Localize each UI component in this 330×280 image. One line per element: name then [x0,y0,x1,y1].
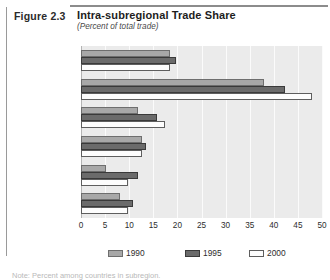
gridline-35 [250,46,251,218]
legend-label: 1990 [126,248,145,258]
x-tick-label-5: 5 [103,221,108,230]
x-tick-label-40: 40 [269,221,278,230]
chart-legend: 199019952000 [81,248,322,260]
bar [81,150,142,157]
legend-label: 1995 [203,248,222,258]
figure-footnote: Note: Percent among countries in subregi… [12,271,160,280]
bar [81,121,165,128]
legend-swatch-icon [108,250,123,257]
legend-swatch-icon [185,250,200,257]
x-tick-label-25: 25 [197,221,206,230]
legend-swatch-icon [249,250,264,257]
bar [81,193,120,200]
bar [81,79,264,86]
gridline-40 [274,46,275,218]
bar [81,179,128,186]
x-tick-label-45: 45 [293,221,302,230]
bar [81,114,157,121]
gridline-20 [177,46,178,218]
bar [81,207,128,214]
bar [81,64,170,71]
figure-subtitle: (Percent of total trade) [77,22,158,31]
legend-item-1995[interactable]: 1995 [185,248,222,258]
x-tick-label-50: 50 [317,221,326,230]
x-tick-label-35: 35 [245,221,254,230]
x-tick-label-20: 20 [173,221,182,230]
figure-number: Figure 2.3 [14,10,66,22]
bar [81,93,312,100]
x-tick-label-30: 30 [221,221,230,230]
x-tick-label-15: 15 [149,221,158,230]
gridline-10 [129,46,130,218]
gridline-50 [322,46,323,218]
bar [81,107,138,114]
bar [81,86,285,93]
legend-item-2000[interactable]: 2000 [249,248,286,258]
bar [81,165,106,172]
figure-container: Figure 2.3 Intra-subregional Trade Share… [0,0,330,280]
figure-title: Intra-subregional Trade Share [77,9,236,21]
bar [81,57,176,64]
x-tick-label-10: 10 [125,221,134,230]
legend-label: 2000 [267,248,286,258]
x-tick-label-0: 0 [79,221,84,230]
left-border-rule [6,7,7,256]
gridline-30 [226,46,227,218]
gridline-25 [202,46,203,218]
bar [81,143,146,150]
bar [81,172,138,179]
gridline-15 [153,46,154,218]
header-rule [70,5,328,7]
bar [81,200,133,207]
bar [81,136,142,143]
gridline-45 [298,46,299,218]
bar [81,50,170,57]
legend-item-1990[interactable]: 1990 [108,248,145,258]
chart-plot-area [81,46,322,218]
